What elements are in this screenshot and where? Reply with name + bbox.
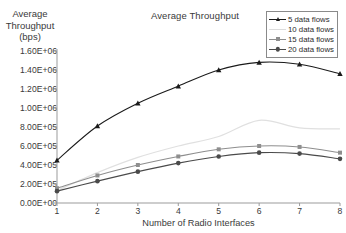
data-point-marker: [176, 154, 180, 158]
data-point-marker: [95, 179, 100, 184]
data-point-marker: [95, 173, 99, 177]
data-point-marker: [257, 150, 262, 155]
data-point-marker: [136, 163, 140, 167]
chart-plot-area: [0, 0, 346, 233]
data-point-marker: [298, 145, 302, 149]
data-point-marker: [136, 169, 141, 174]
chart-container: Average Throughput (bps) Average Through…: [0, 0, 346, 233]
data-point-marker: [216, 154, 221, 159]
data-point-marker: [338, 151, 342, 155]
data-point-marker: [217, 147, 221, 151]
series-line: [57, 62, 340, 160]
data-point-marker: [257, 144, 261, 148]
data-point-marker: [135, 101, 140, 106]
data-point-marker: [176, 161, 181, 166]
data-point-marker: [297, 151, 302, 156]
data-point-marker: [338, 157, 343, 162]
data-point-marker: [55, 189, 60, 194]
